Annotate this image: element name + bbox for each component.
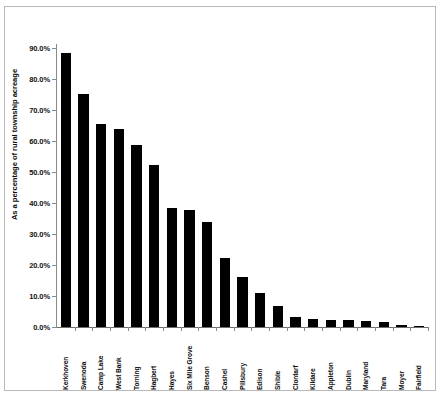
y-axis-tick-label: 0.0% (33, 323, 50, 332)
y-axis-tick-label: 50.0% (29, 168, 50, 177)
bar (202, 222, 213, 327)
x-axis-tick (322, 327, 323, 331)
x-axis-label-text: West Bank (116, 357, 123, 390)
y-axis-tick-label: 40.0% (29, 199, 50, 208)
x-axis-tick (128, 327, 129, 331)
x-axis-label-text: Pillsbury (240, 363, 247, 390)
x-axis-tick (357, 327, 358, 331)
bar (343, 320, 354, 327)
x-axis-label-text: Hagbert (151, 366, 158, 390)
x-axis-label-text: Camp Lake (98, 356, 105, 390)
y-axis-tick-label: 20.0% (29, 261, 50, 270)
x-axis-tick (304, 327, 305, 331)
x-axis-tick (428, 327, 429, 331)
x-axis-tick (340, 327, 341, 331)
chart-screenshot: As a percentage of rural township acreag… (0, 0, 443, 401)
x-axis-line (56, 327, 429, 328)
y-axis-tick-label: 60.0% (29, 137, 50, 146)
y-axis-tick-label: 30.0% (29, 230, 50, 239)
y-axis-tick-label: 80.0% (29, 75, 50, 84)
x-axis-tick (216, 327, 217, 331)
x-axis-tick (393, 327, 394, 331)
x-axis-tick (92, 327, 93, 331)
y-axis-tick-label: 70.0% (29, 106, 50, 115)
bar (114, 129, 125, 327)
bar (255, 293, 266, 327)
x-axis-label-text: Shible (275, 371, 282, 390)
x-axis-tick (198, 327, 199, 331)
x-axis-label-text: Hayes (169, 371, 176, 390)
x-axis-label-text: Cashel (222, 369, 229, 390)
x-axis-label-text: Moyer (399, 371, 406, 390)
bar (149, 165, 160, 327)
bar (396, 325, 407, 327)
x-axis-tick (269, 327, 270, 331)
bar (326, 320, 337, 327)
bar (237, 277, 248, 327)
bar (273, 306, 284, 327)
x-axis-tick (181, 327, 182, 331)
x-axis-label-text: Torning (134, 367, 141, 390)
bar (167, 208, 178, 327)
x-axis-tick (110, 327, 111, 331)
bar (131, 145, 142, 327)
x-axis-tick (145, 327, 146, 331)
x-axis-label-text: Six Mile Grove (187, 346, 194, 390)
x-axis-tick (234, 327, 235, 331)
y-axis-tick-label: 10.0% (29, 292, 50, 301)
bar (290, 317, 301, 327)
bar (379, 322, 390, 327)
x-axis-label-text: Kildare (310, 368, 317, 390)
x-axis-tick (251, 327, 252, 331)
bar (220, 258, 231, 327)
y-axis-tick (52, 327, 57, 328)
x-axis-tick (375, 327, 376, 331)
x-axis-label-text: Kerkhoven (63, 357, 70, 390)
bar (184, 210, 195, 327)
x-axis-label-text: Maryland (363, 362, 370, 390)
x-axis-label-text: Swenoda (81, 362, 88, 390)
x-axis-label-text: Fairfield (416, 365, 423, 390)
x-axis-label-text: Edison (257, 369, 264, 390)
x-axis-tick (287, 327, 288, 331)
x-axis-label-text: Clontarf (293, 366, 300, 390)
y-axis-tick-label: 90.0% (29, 44, 50, 53)
bar (78, 94, 89, 327)
x-axis-label-text: Appleton (328, 362, 335, 390)
bar (96, 124, 107, 327)
bar (308, 319, 319, 327)
x-axis-label-text: Benson (204, 366, 211, 390)
x-axis-tick (75, 327, 76, 331)
x-axis-tick (410, 327, 411, 331)
bar (414, 326, 425, 327)
x-axis-label-text: Dublin (346, 370, 353, 390)
x-axis-tick (163, 327, 164, 331)
y-axis-tick-labels: 90.0%80.0%70.0%60.0%50.0%40.0%30.0%20.0%… (0, 0, 50, 401)
x-axis-label-text: Tara (381, 377, 388, 390)
bar (361, 321, 372, 327)
plot-area (57, 48, 428, 327)
bar (61, 53, 72, 327)
